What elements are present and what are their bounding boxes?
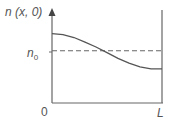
reference-level-label: n0	[27, 46, 39, 62]
x-end-label: L	[157, 106, 164, 120]
y-axis-label: n (x, 0)	[5, 5, 42, 19]
diagram: n (x, 0) n0 0 L	[0, 0, 170, 124]
y-axis-arrow-icon	[49, 8, 56, 16]
x-start-label: 0	[41, 105, 48, 119]
